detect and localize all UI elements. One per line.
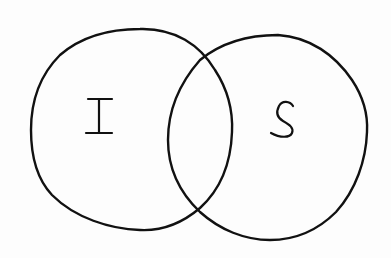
venn-diagram-canvas (0, 0, 391, 258)
venn-diagram: I S (0, 0, 391, 258)
set-label-right (271, 102, 293, 137)
set-label-left (86, 99, 112, 133)
set-circle-right (168, 35, 367, 240)
